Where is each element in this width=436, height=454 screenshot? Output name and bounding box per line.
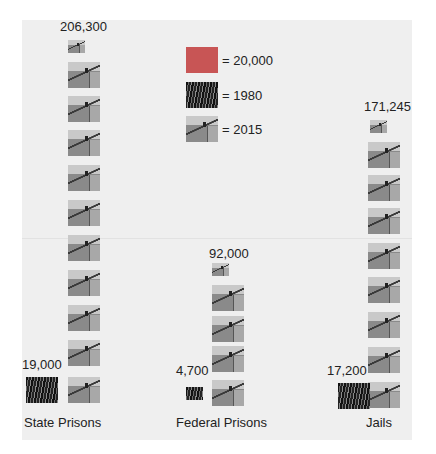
state-2015-icon [68,62,100,88]
jails-2015-icon [368,243,400,269]
federal-2015-icon [212,380,244,406]
jails-2015-icon [368,208,400,234]
jails-2015-icon [368,142,400,168]
jails-2015-value: 171,245 [364,99,411,114]
state-2015-icon [68,235,100,261]
legend-unit-swatch [186,47,218,73]
category-jails: Jails [366,415,392,430]
state-2015-icon [68,377,100,403]
federal-1980-icon [186,387,203,400]
legend-2015-icon [186,116,218,142]
jails-1980-icon [338,383,370,409]
state-1980-icon [26,377,58,403]
state-2015-icon [68,340,100,366]
jails-2015-icon [368,175,400,201]
legend-2015-label: = 2015 [222,122,262,137]
state-2015-icon [68,96,100,122]
jails-2015-icon [368,382,400,408]
federal-2015-icon [212,346,244,372]
federal-2015-icon [212,285,244,311]
state-2015-icon [68,305,100,331]
state-2015-icon [68,165,100,191]
state-2015-icon [68,270,100,296]
jails-1980-value: 17,200 [327,363,367,378]
legend-1980-icon [186,82,218,108]
federal-2015-icon [212,316,244,342]
state-1980-value: 19,000 [22,357,62,372]
federal-1980-value: 4,700 [176,363,209,378]
category-state-prisons: State Prisons [24,415,101,430]
federal-2015-partial-icon [212,263,229,276]
state-2015-value: 206,300 [60,19,107,34]
federal-2015-value: 92,000 [209,246,249,261]
state-2015-icon [68,130,100,156]
jails-2015-icon [368,347,400,373]
legend-unit-label: = 20,000 [222,53,273,68]
jails-2015-icon [368,312,400,338]
jails-2015-partial-icon [370,120,387,133]
legend-1980-label: = 1980 [222,88,262,103]
jails-2015-icon [368,277,400,303]
state-2015-partial-icon [68,40,85,53]
state-2015-icon [68,200,100,226]
category-federal-prisons: Federal Prisons [176,415,267,430]
